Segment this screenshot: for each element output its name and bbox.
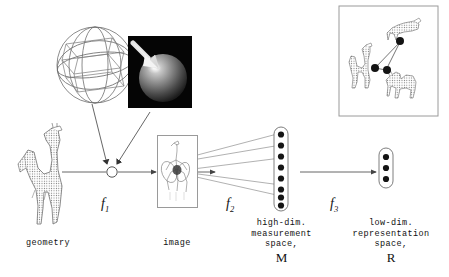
label-geometry: geometry <box>2 238 94 249</box>
high-dim-space-column <box>274 127 288 211</box>
f1-node <box>107 167 117 177</box>
f1-input-arrows <box>92 104 150 164</box>
wireframe-sphere-icon <box>54 27 136 103</box>
label-low-dim-representation-space: low-dim. representation space, <box>341 218 441 250</box>
rendered-lit-sphere-panel <box>128 36 192 108</box>
diagram-canvas: geometry image high-dim. measurement spa… <box>0 0 449 277</box>
f2-subscript: 2 <box>230 204 234 214</box>
low-dim-embedding-inset <box>339 6 438 116</box>
image-frame <box>157 135 198 208</box>
label-f1: f1 <box>101 196 109 214</box>
giraffe-wireframe-model <box>18 123 62 224</box>
low-dim-space-column <box>379 148 393 188</box>
rendered-giraffe-image <box>158 136 197 207</box>
symbol-R: R <box>341 250 441 266</box>
label-image: image <box>140 238 214 249</box>
rendered-sphere-svg <box>128 36 192 108</box>
label-high-dim-measurement-space: high-dim. measurement space, <box>240 218 323 250</box>
f1-subscript: 1 <box>105 204 109 214</box>
label-f3: f3 <box>330 196 338 214</box>
label-f2: f2 <box>226 196 234 214</box>
f3-subscript: 3 <box>334 204 338 214</box>
symbol-M: M <box>240 250 323 266</box>
